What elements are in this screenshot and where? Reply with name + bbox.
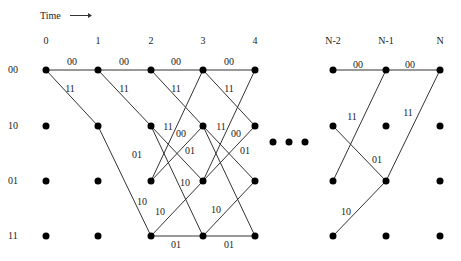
trellis-node <box>148 123 155 130</box>
edge-label: 11 <box>171 83 181 94</box>
trellis-node <box>437 178 444 185</box>
edge-label: 00 <box>119 56 129 67</box>
trellis-edge <box>98 126 151 236</box>
time-header: Time <box>40 10 92 21</box>
trellis-node <box>43 178 50 185</box>
edge-label: 00 <box>224 56 234 67</box>
edge-label: 01 <box>132 149 142 160</box>
trellis-node <box>437 123 444 130</box>
edge-label: 01 <box>185 145 195 156</box>
edge-label: 11 <box>216 121 226 132</box>
trellis-node <box>148 233 155 240</box>
edge-label: 10 <box>341 206 351 217</box>
trellis-edge <box>203 70 255 126</box>
column-labels: 01234N-2N-1N <box>44 35 444 46</box>
column-label: 3 <box>201 35 206 46</box>
ellipsis-dot <box>270 139 277 146</box>
trellis-node <box>437 233 444 240</box>
column-label: 2 <box>149 35 154 46</box>
trellis-node <box>437 67 444 74</box>
trellis-edge <box>151 70 203 126</box>
column-label: N-2 <box>325 35 341 46</box>
column-label: 0 <box>44 35 49 46</box>
trellis-node <box>148 67 155 74</box>
ellipsis-dot <box>302 139 309 146</box>
trellis-node <box>383 178 390 185</box>
edge-label: 00 <box>171 56 181 67</box>
trellis-node <box>383 123 390 130</box>
trellis-node <box>200 67 207 74</box>
column-label: N <box>436 35 443 46</box>
column-label: 1 <box>96 35 101 46</box>
edge-label: 01 <box>224 239 234 250</box>
trellis-node <box>252 178 259 185</box>
trellis-edge <box>203 126 255 236</box>
edge-label: 11 <box>403 107 413 118</box>
trellis-edge <box>151 126 203 236</box>
edge-label: 10 <box>211 204 221 215</box>
trellis-node <box>383 233 390 240</box>
trellis-edge <box>98 70 151 126</box>
edge-label: 11 <box>224 83 234 94</box>
edge-label: 00 <box>231 128 241 139</box>
trellis-node <box>330 233 337 240</box>
state-label: 11 <box>8 230 18 241</box>
state-label: 01 <box>8 175 18 186</box>
edge-label: 11 <box>347 111 357 122</box>
state-label: 00 <box>8 64 18 75</box>
trellis-node <box>252 67 259 74</box>
trellis-node <box>95 67 102 74</box>
edge-label: 11 <box>119 83 129 94</box>
column-label: N-1 <box>378 35 394 46</box>
trellis-node <box>252 233 259 240</box>
trellis-edge <box>386 70 440 181</box>
edge-label: 00 <box>353 59 363 70</box>
trellis-node <box>148 178 155 185</box>
edge-label: 00 <box>405 59 415 70</box>
edge-labels: 0011001110001101110001101001001111000110… <box>65 56 415 250</box>
edge-label: 10 <box>137 196 147 207</box>
trellis-node <box>43 233 50 240</box>
trellis-node <box>200 123 207 130</box>
ellipsis-dot <box>286 139 293 146</box>
trellis-node <box>200 178 207 185</box>
state-label: 10 <box>8 120 18 131</box>
trellis-edge <box>46 70 98 126</box>
edge-label: 10 <box>155 206 165 217</box>
trellis-diagram: Time 01234N-2N-1N 00100111 0011001110001… <box>0 0 461 261</box>
trellis-node <box>330 123 337 130</box>
edge-label: 10 <box>180 177 190 188</box>
trellis-node <box>383 67 390 74</box>
trellis-node <box>43 123 50 130</box>
time-label: Time <box>40 10 61 21</box>
edge-label: 11 <box>163 121 173 132</box>
trellis-node <box>252 123 259 130</box>
trellis-node <box>95 178 102 185</box>
edge-label: 00 <box>67 56 77 67</box>
trellis-node <box>200 233 207 240</box>
edge-label: 11 <box>65 83 75 94</box>
ellipsis <box>270 139 309 146</box>
edge-label: 01 <box>372 154 382 165</box>
trellis-node <box>330 67 337 74</box>
trellis-node <box>43 67 50 74</box>
column-label: 4 <box>253 35 258 46</box>
state-labels: 00100111 <box>8 64 18 241</box>
trellis-node <box>95 233 102 240</box>
trellis-node <box>330 178 337 185</box>
trellis-node <box>95 123 102 130</box>
edge-label: 01 <box>240 145 250 156</box>
edge-label: 01 <box>171 239 181 250</box>
edge-label: 00 <box>176 128 186 139</box>
arrow-head-icon <box>88 13 92 18</box>
